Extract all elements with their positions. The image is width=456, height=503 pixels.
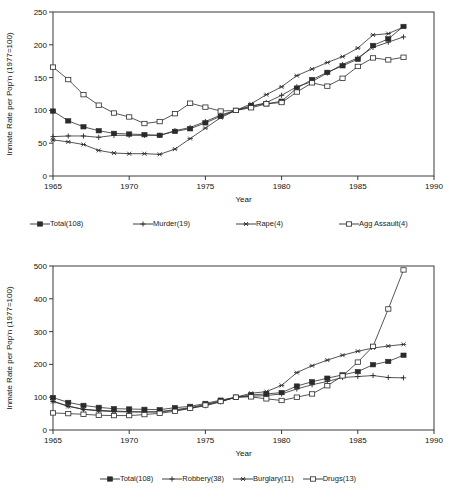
data-point <box>370 344 375 348</box>
chart-violent-crimes: 050100150200250196519701975198019851990Y… <box>0 0 456 250</box>
data-point <box>355 349 360 353</box>
x-tick-label: 1975 <box>197 182 215 191</box>
legend-item-label: Total(108) <box>50 219 83 229</box>
y-tick-label: 200 <box>34 360 48 369</box>
x-axis: 196519701975198019851990 <box>44 176 443 191</box>
legend-item-murder-19[interactable]: Murder(19) <box>133 219 236 229</box>
data-point <box>264 93 269 97</box>
data-point <box>309 392 314 396</box>
legend-marker-glyph <box>240 477 245 481</box>
y-tick-label: 300 <box>34 328 48 337</box>
legend-property-drug-crimes: Total(108)Robbery(38)Burglary(11)Drugs(1… <box>0 474 456 484</box>
legend-item-burglary-11[interactable]: Burglary(11) <box>233 474 294 484</box>
y-tick-label: 200 <box>34 41 48 50</box>
series-robbery-38- <box>50 373 406 415</box>
violent-crimes-plot: 050100150200250196519701975198019851990Y… <box>0 0 456 215</box>
data-point <box>294 371 299 375</box>
data-point <box>386 344 391 348</box>
x-tick-label: 1970 <box>120 182 138 191</box>
data-point <box>355 374 360 379</box>
data-point <box>218 109 223 113</box>
data-point <box>142 121 147 125</box>
data-point <box>370 363 375 367</box>
data-point <box>401 353 406 357</box>
data-point <box>386 375 391 380</box>
data-point <box>203 403 208 407</box>
y-axis-label: Inmate Rate per Pop'n (1977=100) <box>5 286 14 410</box>
y-axis: 0100200300400500 <box>34 262 53 435</box>
data-point <box>157 152 162 156</box>
data-point <box>142 152 147 156</box>
data-point <box>294 74 299 78</box>
legend-item-agg-assault-4[interactable]: Agg Assault(4) <box>339 219 442 229</box>
series-line <box>53 355 404 409</box>
x-axis-label: Year <box>235 449 252 458</box>
data-point <box>111 111 116 115</box>
x-axis-label: Year <box>235 195 252 204</box>
data-point <box>249 395 254 399</box>
y-tick-label: 400 <box>34 295 48 304</box>
x-tick-label: 1990 <box>425 182 443 191</box>
data-point <box>309 364 314 368</box>
legend-marker-glyph <box>170 476 175 481</box>
data-point <box>81 412 86 416</box>
legend-item-total-108[interactable]: Total(108) <box>30 219 133 229</box>
x-tick-label: 1990 <box>425 436 443 445</box>
data-point <box>172 409 177 413</box>
data-point <box>172 111 177 115</box>
legend-marker-star-icon <box>233 474 253 484</box>
plot-frame <box>53 12 434 176</box>
series-line <box>53 27 404 154</box>
data-point <box>233 395 238 399</box>
data-point <box>340 55 345 59</box>
data-point <box>340 374 345 378</box>
legend-marker-plus-icon <box>162 474 182 484</box>
data-point <box>203 105 208 109</box>
y-tick-label: 250 <box>34 8 48 17</box>
legend-marker-glyph <box>243 222 248 226</box>
y-tick-label: 0 <box>43 426 48 435</box>
legend-marker-star-icon <box>236 219 256 229</box>
legend-marker-filled-square-icon <box>30 219 50 229</box>
data-point <box>203 126 208 130</box>
data-point <box>127 115 132 119</box>
data-point <box>370 56 375 60</box>
data-point <box>370 373 375 378</box>
data-point <box>370 33 375 37</box>
data-point <box>401 55 406 59</box>
data-point <box>355 360 360 364</box>
legend-item-label: Murder(19) <box>153 219 190 229</box>
data-point <box>66 77 71 81</box>
legend-marker-glyph <box>37 222 42 226</box>
data-point <box>96 135 101 140</box>
data-point <box>81 92 86 96</box>
data-point <box>157 411 162 415</box>
x-tick-label: 1980 <box>273 436 291 445</box>
legend-item-label: Rape(4) <box>256 219 283 229</box>
data-point <box>172 147 177 151</box>
legend-item-rape-4[interactable]: Rape(4) <box>236 219 339 229</box>
data-point <box>249 106 254 110</box>
legend-item-drugs-13[interactable]: Drugs(13) <box>303 474 356 484</box>
legend-item-robbery-38[interactable]: Robbery(38) <box>162 474 224 484</box>
data-point <box>340 353 345 357</box>
data-point <box>96 148 101 152</box>
series-line <box>53 270 404 416</box>
x-tick-label: 1980 <box>273 182 291 191</box>
data-point <box>340 76 345 80</box>
data-point <box>81 133 86 138</box>
legend-item-total-108[interactable]: Total(108) <box>100 474 153 484</box>
x-tick-label: 1970 <box>120 436 138 445</box>
plot-frame <box>53 266 434 430</box>
series-line <box>53 344 404 412</box>
y-tick-label: 50 <box>38 139 47 148</box>
data-point <box>386 307 391 311</box>
data-point <box>309 67 314 71</box>
data-point <box>355 46 360 50</box>
data-point <box>188 406 193 410</box>
series-agg-assault-4- <box>50 55 406 126</box>
data-point <box>294 395 299 399</box>
series-burglary-11- <box>50 342 406 414</box>
y-axis-label: Inmate Rate per Pop'n (1977=100) <box>5 32 14 156</box>
data-point <box>81 143 86 147</box>
